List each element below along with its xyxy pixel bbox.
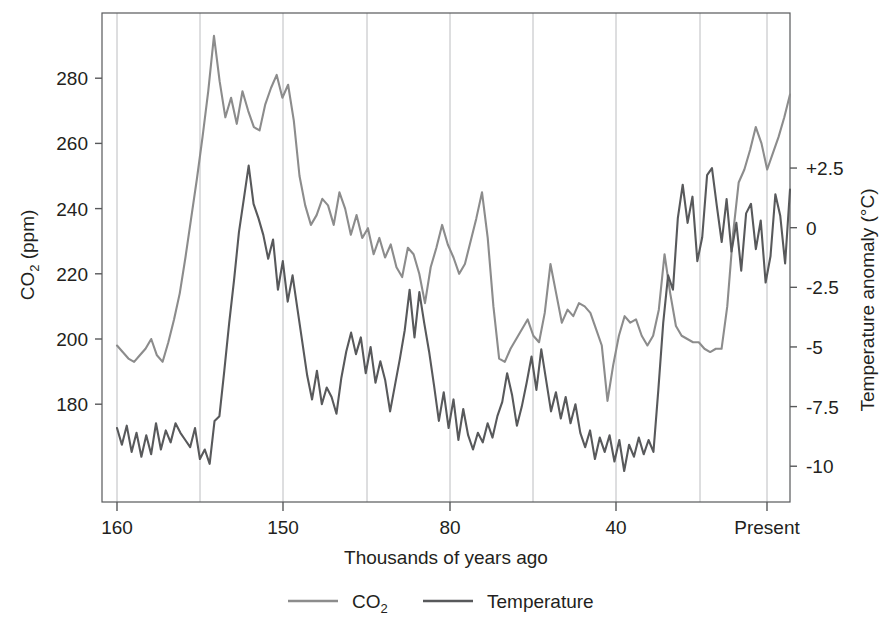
x-axis-tick-label: 40	[605, 517, 626, 538]
right-axis-title-text: Temperature anomaly (°C)	[857, 188, 878, 411]
legend-label-co2-main: CO	[352, 591, 381, 612]
left-axis-tick-label: 180	[56, 394, 88, 415]
co2-temperature-line-chart: 280260240220200180 +2.50-2.5-5-7.5-10 16…	[0, 0, 892, 628]
left-axis-title-subscript: 2	[27, 265, 42, 272]
legend-label-co2-sub: 2	[381, 601, 388, 616]
right-axis-tick-label: -5	[806, 337, 823, 358]
right-axis-tick-label: -7.5	[806, 397, 839, 418]
left-axis-tick-label: 240	[56, 199, 88, 220]
left-axis-tick-label: 260	[56, 133, 88, 154]
x-axis-tick-label: 160	[101, 517, 133, 538]
left-axis-tick-label: 220	[56, 264, 88, 285]
left-axis-tick-label: 280	[56, 68, 88, 89]
x-axis-tick-label: 150	[267, 517, 299, 538]
left-axis-title-unit: (ppm)	[17, 210, 38, 265]
x-axis-title: Thousands of years ago	[344, 547, 548, 568]
right-axis-tick-label: -10	[806, 456, 833, 477]
right-axis-tick-label: -2.5	[806, 277, 839, 298]
left-axis-title-main: CO	[17, 272, 38, 301]
right-axis-tick-label: +2.5	[806, 158, 844, 179]
legend-label-temperature: Temperature	[487, 591, 594, 612]
right-axis-tick-label: 0	[806, 218, 817, 239]
x-axis-tick-label: 80	[439, 517, 460, 538]
left-axis-tick-label: 200	[56, 329, 88, 350]
chart-figure: 280260240220200180 +2.50-2.5-5-7.5-10 16…	[0, 0, 892, 628]
right-axis-title: Temperature anomaly (°C)	[857, 188, 878, 411]
x-axis-tick-label: Present	[734, 517, 800, 538]
